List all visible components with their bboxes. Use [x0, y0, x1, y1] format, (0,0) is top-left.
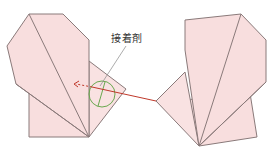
glue-label: 接着剤: [111, 30, 143, 45]
left-folded-piece: [7, 14, 126, 137]
origami-assembly-diagram: [0, 0, 271, 155]
left-tab: [89, 61, 126, 137]
right-folded-piece: [156, 14, 266, 146]
